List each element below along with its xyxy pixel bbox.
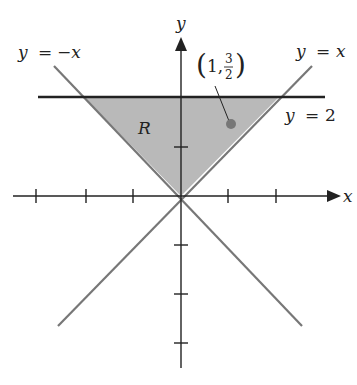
svg-text:=: =: [305, 105, 319, 125]
svg-text:−x: −x: [57, 42, 81, 62]
svg-text:(: (: [196, 48, 207, 81]
y-axis-arrow-icon: [175, 37, 187, 51]
label-y-neg-x: y = −x: [17, 42, 81, 62]
svg-text:3: 3: [225, 52, 233, 66]
point-label: ( 1, 3 2 ): [196, 48, 246, 82]
label-y-2: y = 2: [284, 105, 336, 125]
svg-text:y: y: [284, 105, 295, 125]
svg-text:2: 2: [325, 105, 336, 125]
y-axis-label: y: [175, 13, 186, 33]
label-y-x: y = x: [295, 41, 346, 61]
region-label: R: [137, 118, 151, 138]
svg-text:=: =: [316, 41, 330, 61]
x-axis-label: x: [343, 186, 353, 206]
svg-text:y: y: [17, 42, 28, 62]
x-axis-arrow-icon: [327, 190, 341, 202]
svg-text:2: 2: [225, 68, 233, 82]
diagram-canvas: x y R y = −x y = x y = 2 ( 1, 3 2 ): [0, 0, 357, 385]
svg-text:=: =: [38, 42, 52, 62]
svg-text:x: x: [336, 41, 346, 61]
svg-text:y: y: [295, 41, 306, 61]
svg-text:1,: 1,: [207, 56, 223, 76]
point-marker: [226, 119, 236, 129]
svg-text:): ): [235, 48, 246, 81]
